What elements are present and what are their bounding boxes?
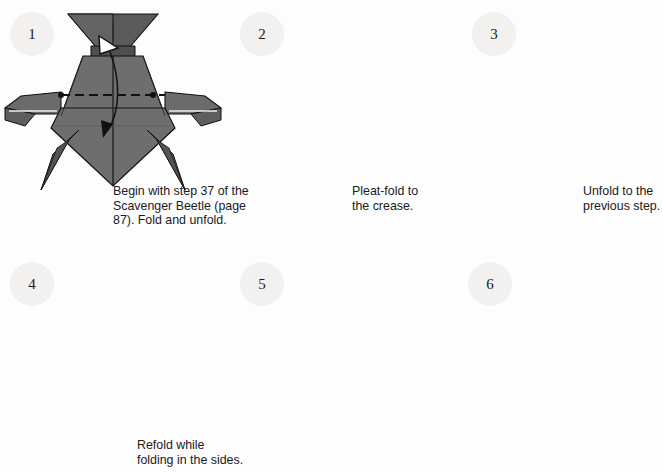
crease-endpoint-dot — [58, 92, 64, 98]
origami-instruction-sheet — [0, 0, 663, 473]
step-badge-4: 4 — [10, 262, 54, 306]
step-caption-3: Unfold to the previous step. — [583, 184, 660, 213]
step-badge-1: 1 — [10, 12, 54, 56]
crease-endpoint-dot — [150, 92, 156, 98]
step-caption-2: Pleat-fold to the crease. — [352, 184, 418, 213]
step-badge-5: 5 — [240, 262, 284, 306]
step-badge-6: 6 — [468, 262, 512, 306]
step-badge-3: 3 — [472, 12, 516, 56]
step-caption-1: Begin with step 37 of the Scavenger Beet… — [113, 184, 249, 228]
step-badge-2: 2 — [240, 12, 284, 56]
step-caption-4: Refold while folding in the sides. — [137, 438, 243, 467]
